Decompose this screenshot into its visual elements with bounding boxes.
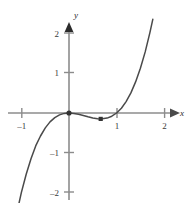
- marked-point-origin: [66, 110, 71, 115]
- x-axis-label: x: [179, 108, 184, 118]
- x-tick-label-2: 2: [162, 121, 167, 131]
- plot-svg: x y –1 1 2 2 1 –1 –2: [0, 0, 195, 203]
- y-axis-label: y: [73, 10, 78, 20]
- y-tick-label-2: 2: [55, 29, 60, 39]
- x-axis-arrow-icon: [170, 109, 180, 118]
- y-tick-label-neg2: –2: [49, 188, 59, 198]
- graph-figure: x y –1 1 2 2 1 –1 –2: [0, 0, 195, 203]
- y-tick-label-neg1: –1: [49, 148, 59, 158]
- x-tick-label-1: 1: [115, 121, 120, 131]
- cubic-curve: [17, 19, 153, 203]
- x-tick-label-neg1: –1: [16, 121, 26, 131]
- marked-point-minimum: [99, 117, 103, 121]
- y-axis-arrow-icon: [65, 22, 74, 32]
- y-tick-label-1: 1: [55, 68, 60, 78]
